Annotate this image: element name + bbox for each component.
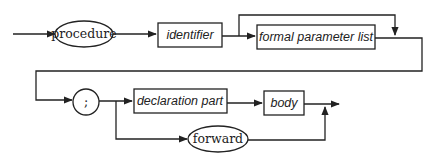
svg-text:formal parameter list: formal parameter list [259,30,373,44]
terminal-procedure: procedure [51,21,116,47]
svg-text:;: ; [84,94,88,109]
terminal-semicolon: ; [73,89,99,115]
nonterminal-body: body [264,91,304,115]
nonterminal-formal-parameter-list: formal parameter list [257,25,375,49]
terminal-forward: forward [188,126,248,152]
svg-text:procedure: procedure [51,26,116,41]
nonterminal-declaration-part: declaration part [134,89,227,113]
syntax-diagram: procedure identifier formal parameter li… [0,0,437,161]
svg-text:body: body [270,96,298,110]
svg-text:forward: forward [193,131,243,146]
svg-text:declaration part: declaration part [137,94,224,108]
nonterminal-identifier: identifier [158,23,222,47]
svg-text:identifier: identifier [166,28,214,42]
